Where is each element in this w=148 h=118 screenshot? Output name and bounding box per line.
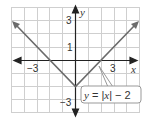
x-axis-left-arrow-icon — [14, 58, 21, 64]
y-axis-label: y — [79, 6, 85, 18]
x-tick-3: 3 — [110, 63, 116, 74]
graph: y x 3 1 −3 −3 3 y = |x| − 2 — [0, 0, 148, 118]
y-tick-1: 1 — [67, 42, 73, 53]
x-tick-neg3: −3 — [27, 63, 39, 74]
y-tick-neg3: −3 — [60, 97, 72, 108]
equation-label: y = |x| − 2 — [83, 89, 131, 101]
y-tick-3: 3 — [66, 15, 72, 26]
y-axis-down-arrow-icon — [73, 109, 79, 116]
x-axis-label: x — [130, 63, 136, 75]
